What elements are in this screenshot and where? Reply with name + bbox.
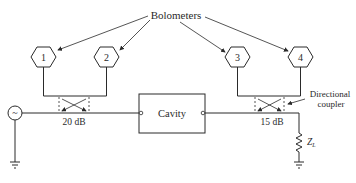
right-coupler-label: 15 dB xyxy=(261,117,284,127)
directional-coupler-pointer-arrow xyxy=(288,99,305,104)
cavity-output-port xyxy=(201,111,205,115)
main-line-right xyxy=(205,113,299,130)
right-directional-coupler xyxy=(255,97,305,113)
load-resistor-icon xyxy=(296,130,302,162)
arrow-to-bolometer-1 xyxy=(58,16,148,50)
ground-icon-left xyxy=(10,162,20,168)
bolometers-label: Bolometers xyxy=(151,9,202,21)
arrow-to-bolometer-4 xyxy=(205,17,288,51)
source-symbol: ~ xyxy=(12,107,18,118)
bolometer-3-label: 3 xyxy=(235,52,240,63)
bolometer-2-label: 2 xyxy=(104,52,109,63)
arrow-to-bolometer-3 xyxy=(180,22,225,52)
left-directional-coupler xyxy=(59,97,89,113)
left-coupler-secondary-line xyxy=(44,67,107,96)
ground-icon-right xyxy=(294,162,304,168)
right-coupler-secondary-line xyxy=(238,67,301,96)
cavity-label: Cavity xyxy=(158,108,187,119)
directional-coupler-label-line1: Directional xyxy=(310,89,351,99)
bolometer-leader-arrows xyxy=(58,16,288,52)
load-label: ZL xyxy=(307,137,316,148)
directional-coupler-label-line2: coupler xyxy=(318,99,345,109)
cavity-measurement-diagram: Bolometers 1 2 3 4 ~ 20 dB xyxy=(0,0,356,183)
bolometer-4-label: 4 xyxy=(298,52,303,63)
bolometer-1-label: 1 xyxy=(41,52,46,63)
cavity-input-port xyxy=(139,111,143,115)
left-coupler-label: 20 dB xyxy=(63,117,86,127)
